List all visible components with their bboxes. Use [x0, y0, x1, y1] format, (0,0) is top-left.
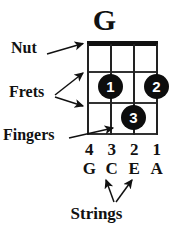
- string-arrow-right-icon: [116, 180, 132, 202]
- nut-arrow-icon: [47, 44, 83, 55]
- string-number: 3: [101, 140, 124, 159]
- fret-line-1: [87, 71, 158, 73]
- string-number: 1: [146, 140, 169, 159]
- strings-label: Strings: [0, 204, 171, 224]
- fret-line-2: [87, 102, 158, 104]
- string-note: C: [101, 159, 124, 178]
- nut-label: Nut: [11, 39, 37, 57]
- string-line-4: [87, 44, 89, 135]
- fret-arrow-lower-icon: [55, 97, 83, 106]
- string-note-row: G C E A: [78, 159, 168, 178]
- finger-dot: 1: [98, 74, 123, 99]
- fretboard-grid: 1 2 3: [87, 41, 158, 135]
- string-number: 2: [123, 140, 146, 159]
- fret-arrow-upper-icon: [55, 73, 83, 95]
- chord-diagram: G Nut Frets Fingers 1 2 3 4 3 2 1 G C E …: [0, 0, 171, 235]
- fingers-label: Fingers: [3, 126, 55, 144]
- nut-bar: [87, 41, 158, 46]
- string-note: A: [146, 159, 169, 178]
- string-number: 4: [78, 140, 101, 159]
- chord-name: G: [0, 2, 171, 38]
- fret-line-3: [87, 133, 158, 135]
- frets-label: Frets: [9, 83, 44, 101]
- finger-dot: 2: [144, 74, 169, 99]
- string-arrow-left-icon: [106, 180, 114, 202]
- finger-dot: 3: [121, 105, 146, 130]
- string-note: E: [123, 159, 146, 178]
- string-number-row: 4 3 2 1: [78, 140, 168, 159]
- string-note: G: [78, 159, 101, 178]
